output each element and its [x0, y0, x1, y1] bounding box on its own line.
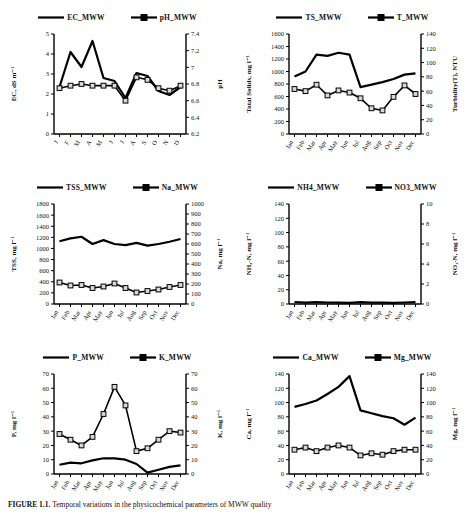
x-tick-label: J [52, 139, 60, 145]
chart-plot-ca-mg: 020406080100120140020406080100120140JanF… [235, 366, 470, 514]
y-tick-label-right: 8 [426, 220, 429, 227]
y-tick-label-left: 1 [46, 110, 49, 117]
chart-legend-nh4-no3: NH4_MWWNO3_MWW [235, 178, 470, 196]
series-marker [358, 453, 363, 458]
y-tick-label-left: 20 [43, 442, 50, 449]
series-marker [167, 429, 172, 434]
legend-swatch-line [38, 13, 64, 22]
y-tick-label-left: 40 [278, 442, 285, 449]
legend-label: Na_MWW [162, 183, 198, 192]
series-marker [325, 93, 330, 98]
x-tick-label: Aug [125, 308, 137, 322]
legend-swatch-line [276, 13, 302, 22]
x-tick-label: Nov [158, 478, 170, 492]
series-marker [336, 443, 341, 448]
legend-swatch-line [268, 183, 294, 192]
y-tick-label-right: 30 [191, 428, 198, 435]
series-line-p_mww [60, 458, 181, 472]
x-tick-label: Jan [284, 478, 295, 490]
legend-label: pH_MWW [160, 13, 197, 22]
y-tick-label-left: 5 [46, 30, 49, 37]
y-tick-label-left: 0 [46, 300, 49, 307]
y-tick-label-right: 300 [191, 270, 201, 277]
series-marker [358, 96, 363, 101]
series-marker [347, 445, 352, 450]
y-tick-label-left: 1600 [36, 212, 49, 219]
x-tick-label: Jan [49, 308, 60, 320]
y-tick-label-left: 60 [43, 385, 50, 392]
y-tick-label-right: 0 [426, 300, 429, 307]
y-tick-label-right: 0 [426, 470, 429, 477]
y-tick-label-left: 200 [274, 118, 284, 125]
y-tick-label-left: 1000 [271, 68, 284, 75]
legend-item-nh4_mww: NH4_MWW [268, 183, 339, 192]
x-tick-label: Nov [393, 308, 405, 322]
x-tick-label: Aug [360, 138, 372, 152]
plot-area-ec-ph: 0123456.26.46.66.877.27.4JFMAMJJASONDEC,… [0, 26, 235, 178]
legend-swatch-line-marker [368, 13, 394, 22]
x-tick-label: Aug [360, 478, 372, 492]
y-tick-label-left: 120 [274, 385, 284, 392]
y-tick-label-left: 40 [278, 272, 285, 279]
x-tick-label: Aug [125, 478, 137, 492]
series-marker [101, 284, 106, 289]
y-tick-label-right: 0 [191, 300, 194, 307]
legend-label: TSS_MWW [66, 183, 107, 192]
x-tick-label: Jul [116, 309, 126, 319]
series-marker [413, 447, 418, 452]
x-tick-label: Dec [404, 479, 415, 492]
series-marker [314, 82, 319, 87]
y-tick-label-left: 1000 [36, 245, 49, 252]
plot-area-nh4-no3: 0204060801001201400246810JanFebMarAprMay… [235, 196, 470, 348]
y-tick-label-right: 40 [426, 102, 433, 109]
y-axis-title-left: P, mg l⁻¹ [10, 411, 18, 437]
series-marker [90, 434, 95, 439]
y-tick-label-left: 0 [46, 470, 49, 477]
y-tick-label-left: 4 [46, 50, 50, 57]
y-tick-label-right: 50 [191, 399, 198, 406]
x-tick-label: May [326, 478, 338, 492]
x-tick-label: Jun [104, 478, 115, 490]
series-marker [178, 283, 183, 288]
y-tick-label-right: 100 [426, 399, 436, 406]
legend-item-ts_mww: TS_MWW [276, 13, 341, 22]
y-tick-label-right: 6 [426, 240, 430, 247]
legend-item-ec_mww: EC_MWW [38, 13, 104, 22]
legend-item-t_mww: T_MWW [368, 13, 429, 22]
y-tick-label-left: 800 [274, 80, 284, 87]
chart-panel-nh4-no3: NH4_MWWNO3_MWW0204060801001201400246810J… [235, 178, 470, 350]
x-tick-label: May [91, 308, 103, 322]
y-tick-label-left: 1600 [271, 30, 284, 37]
y-tick-label-left: 70 [43, 370, 50, 377]
legend-item-na_mww: Na_MWW [133, 183, 198, 192]
series-marker [123, 286, 128, 291]
series-marker [134, 449, 139, 454]
series-marker [391, 94, 396, 99]
chart-plot-tss-na: 0200400600800100012001400160018000100200… [0, 196, 235, 348]
x-tick-label: Feb [294, 479, 305, 491]
series-marker [380, 452, 385, 457]
series-marker [101, 83, 106, 88]
y-tick-label-right: 60 [426, 88, 433, 95]
plot-area-p-k: 010203040506070010203040506070JanFebMarA… [0, 366, 235, 514]
chart-legend-ca-mg: Ca_MWWMg_MWW [235, 348, 470, 366]
series-line-t_mww [295, 85, 416, 111]
x-tick-label: Mar [305, 478, 317, 492]
chart-legend-ec-ph: EC_MWWpH_MWW [0, 8, 235, 26]
x-tick-label: Mar [305, 308, 317, 322]
series-marker [112, 83, 117, 88]
y-tick-label-right: 700 [191, 230, 201, 237]
legend-swatch-line-marker [365, 353, 391, 362]
x-tick-label: Sep [371, 309, 382, 321]
series-marker [90, 286, 95, 291]
series-marker [391, 449, 396, 454]
series-line-nh4_mww [295, 302, 416, 303]
series-marker [68, 437, 73, 442]
y-tick-label-right: 4 [426, 260, 430, 267]
y-tick-label-left: 20 [278, 456, 285, 463]
chart-plot-nh4-no3: 0204060801001201400246810JanFebMarAprMay… [235, 196, 470, 348]
y-tick-label-right: 7.2 [191, 47, 199, 54]
y-axis-title-left: Ca, mg l⁻¹ [245, 408, 253, 439]
y-axis-title-left: EC, dS m⁻¹ [10, 67, 18, 102]
y-tick-label-left: 100 [274, 399, 284, 406]
